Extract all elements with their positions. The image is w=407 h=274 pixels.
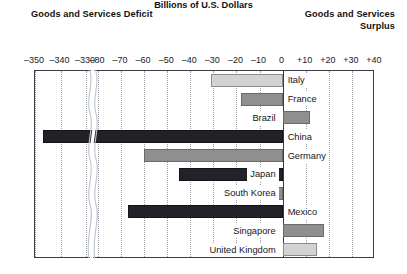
bar-row: South Korea [35, 184, 373, 203]
bar-label-brazil: Brazil [249, 111, 278, 125]
bar-label-united-kingdom: United Kingdom [206, 243, 278, 257]
bar-label-germany: Germany [285, 149, 329, 163]
bar-china[interactable] [43, 130, 283, 143]
surplus-heading: Goods and Services Surplus [285, 9, 395, 32]
bar-brazil[interactable] [283, 111, 311, 124]
x-tick-label: 0 [279, 55, 284, 65]
bar-row: Japan [35, 165, 373, 184]
bar-rows: ItalyFranceBrazilChinaGermanyJapanSouth … [35, 71, 373, 257]
bar-france[interactable] [241, 93, 283, 106]
plot-area: ItalyFranceBrazilChinaGermanyJapanSouth … [34, 70, 374, 258]
x-tick-label: –340 [49, 55, 69, 65]
x-tick-label: –10 [251, 55, 266, 65]
bar-row: Germany [35, 146, 373, 165]
chart-figure: Goods and Services Deficit Goods and Ser… [0, 0, 407, 274]
bar-row: Italy [35, 71, 373, 90]
x-tick-label: –30 [205, 55, 220, 65]
x-tick-label: –70 [112, 55, 127, 65]
deficit-heading: Goods and Services Deficit [31, 9, 153, 19]
bar-row: Mexico [35, 203, 373, 222]
bar-italy[interactable] [211, 74, 283, 87]
bar-row: China [35, 127, 373, 146]
bar-singapore[interactable] [283, 224, 325, 237]
x-tick-label: –40 [182, 55, 197, 65]
bar-label-japan: Japan [247, 167, 278, 181]
x-tick-label: –80 [89, 55, 104, 65]
x-tick-label: +40 [366, 55, 381, 65]
x-tick-label: –60 [136, 55, 151, 65]
bar-row: United Kingdom [35, 240, 373, 259]
bar-mexico[interactable] [128, 205, 283, 218]
x-tick-label: +30 [343, 55, 358, 65]
x-tick-label: –350 [24, 55, 44, 65]
x-tick-label: –50 [159, 55, 174, 65]
bar-label-south-korea: South Korea [221, 186, 279, 200]
x-tick-label: –20 [228, 55, 243, 65]
bar-row: Singapore [35, 221, 373, 240]
x-tick-label: +10 [297, 55, 312, 65]
x-axis-tick-labels: –350–340–330–80–70–60–50–40–30–20–100+10… [0, 55, 407, 68]
bar-label-italy: Italy [285, 73, 308, 87]
bar-label-mexico: Mexico [285, 205, 320, 219]
bar-row: Brazil [35, 109, 373, 128]
bar-label-france: France [285, 92, 320, 106]
bar-row: France [35, 90, 373, 109]
bar-label-singapore: Singapore [230, 224, 278, 238]
bar-label-china: China [285, 130, 315, 144]
x-tick-label: +20 [320, 55, 335, 65]
bar-united-kingdom[interactable] [283, 243, 318, 256]
bar-germany[interactable] [144, 149, 283, 162]
